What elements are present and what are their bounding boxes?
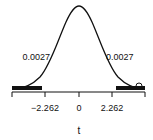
t-distribution-chart: −2.262 0 2.262 0.0027 0.0027 t [0,0,153,140]
x-axis-label: t [78,125,81,136]
left-tail-shading [12,86,42,90]
density-curve [12,6,145,89]
tick-label-pos: 2.262 [101,103,124,113]
tick-label-zero: 0 [76,103,81,113]
left-area-label: 0.0027 [22,52,50,62]
right-area-label: 0.0027 [106,52,134,62]
tick-label-neg: −2.262 [31,103,59,113]
